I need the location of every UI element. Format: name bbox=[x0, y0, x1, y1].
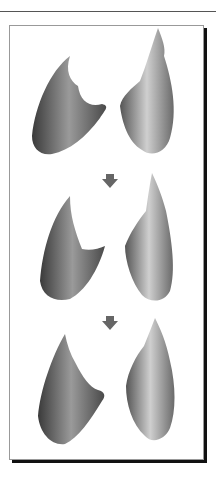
mesh-pair-3 bbox=[10, 316, 203, 456]
render-row-1 bbox=[10, 26, 203, 166]
render-row-3 bbox=[10, 316, 203, 456]
figure-frame bbox=[9, 25, 204, 460]
mesh-pair-2 bbox=[10, 171, 203, 311]
render-row-2 bbox=[10, 171, 203, 311]
mesh-pair-1 bbox=[10, 26, 203, 166]
top-rule bbox=[0, 11, 216, 12]
